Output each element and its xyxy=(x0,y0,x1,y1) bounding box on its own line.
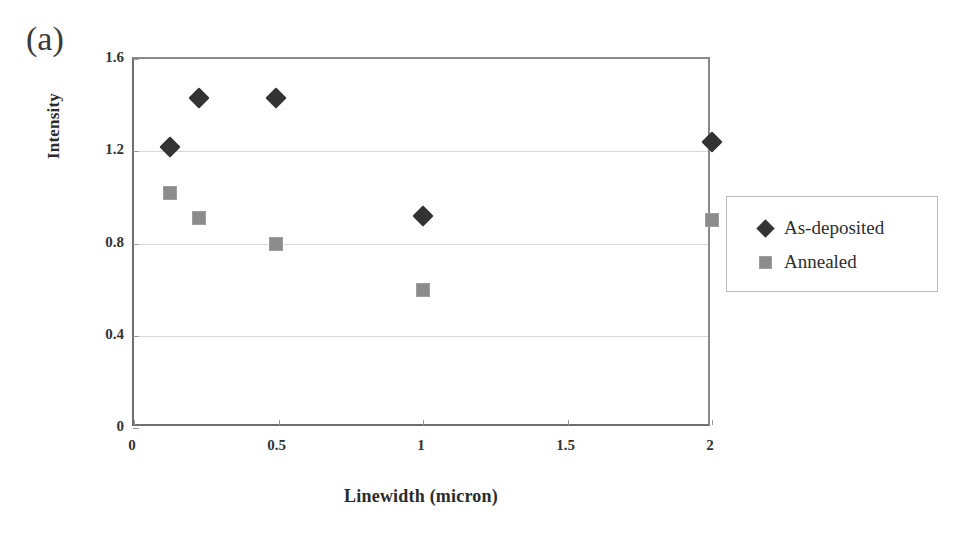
data-point-annealed xyxy=(416,283,430,297)
x-axis-title: Linewidth (micron) xyxy=(132,486,710,507)
data-point-as-deposited xyxy=(412,205,433,226)
legend-item-as-deposited: As-deposited xyxy=(755,211,937,245)
figure-panel-a: (a) 00.40.81.21.6 00.511.52 Intensity Li… xyxy=(0,0,966,546)
y-tick-mark xyxy=(133,336,139,337)
y-axis-tick-labels: 00.40.81.21.6 xyxy=(58,57,124,426)
x-tick-mark xyxy=(568,420,569,425)
x-tick-label: 1 xyxy=(417,437,425,454)
plot-area xyxy=(132,57,710,426)
x-tick-label: 2 xyxy=(706,437,714,454)
y-tick-mark xyxy=(133,244,139,245)
y-axis-title: Intensity xyxy=(44,56,64,196)
square-marker-icon xyxy=(755,256,775,269)
y-tick-label: 1.2 xyxy=(105,141,124,158)
y-tick-mark xyxy=(133,59,139,60)
y-tick-mark xyxy=(133,428,139,429)
x-tick-mark xyxy=(712,420,713,425)
legend-box: As-deposited Annealed xyxy=(726,196,938,292)
gridline xyxy=(134,244,708,245)
y-tick-label: 1.6 xyxy=(105,49,124,66)
x-tick-mark xyxy=(423,420,424,425)
data-point-annealed xyxy=(705,213,719,227)
data-point-as-deposited xyxy=(188,88,209,109)
data-point-as-deposited xyxy=(701,131,722,152)
y-tick-label: 0.4 xyxy=(105,325,124,342)
data-point-annealed xyxy=(269,237,283,251)
y-tick-mark xyxy=(133,151,139,152)
x-tick-mark xyxy=(134,420,135,425)
data-point-as-deposited xyxy=(160,136,181,157)
gridline xyxy=(134,336,708,337)
x-tick-label: 0 xyxy=(128,437,136,454)
data-point-as-deposited xyxy=(265,88,286,109)
data-point-annealed xyxy=(163,186,177,200)
x-tick-label: 1.5 xyxy=(556,437,575,454)
legend-item-annealed: Annealed xyxy=(755,245,937,279)
diamond-marker-icon xyxy=(755,222,775,235)
plot-inner xyxy=(134,59,708,424)
legend-label: As-deposited xyxy=(784,217,884,239)
y-tick-label: 0.8 xyxy=(105,233,124,250)
data-point-annealed xyxy=(192,211,206,225)
x-axis-tick-labels: 00.511.52 xyxy=(132,437,710,461)
gridline xyxy=(134,151,708,152)
y-tick-label: 0 xyxy=(117,418,125,435)
x-tick-mark xyxy=(279,420,280,425)
x-tick-label: 0.5 xyxy=(267,437,286,454)
legend-label: Annealed xyxy=(784,251,857,273)
panel-label: (a) xyxy=(26,22,64,56)
